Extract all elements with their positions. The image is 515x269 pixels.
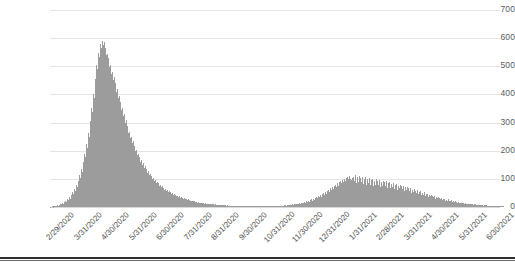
x-axis-labels: 2/29/20203/31/20204/30/20205/31/20206/30… bbox=[50, 208, 500, 268]
plot-area bbox=[50, 10, 500, 207]
bar-chart: 7006005004003002001000 2/29/20203/31/202… bbox=[0, 0, 515, 245]
bar-series bbox=[50, 10, 500, 207]
bottom-divider bbox=[0, 257, 515, 259]
chart-screenshot: 7006005004003002001000 2/29/20203/31/202… bbox=[0, 0, 515, 269]
bottom-divider-secondary bbox=[0, 260, 515, 261]
